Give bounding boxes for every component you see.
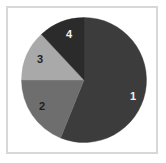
pie-plot-area: 1234: [21, 17, 147, 143]
pie-svg: [21, 17, 147, 143]
pie-slice-label-2: 2: [39, 101, 45, 112]
pie-slice-group: [22, 18, 147, 143]
pie-slice-label-4: 4: [66, 29, 72, 40]
pie-slice-label-1: 1: [130, 91, 136, 102]
pie-chart-figure: 1234: [0, 0, 166, 163]
pie-slice-label-3: 3: [37, 54, 43, 65]
